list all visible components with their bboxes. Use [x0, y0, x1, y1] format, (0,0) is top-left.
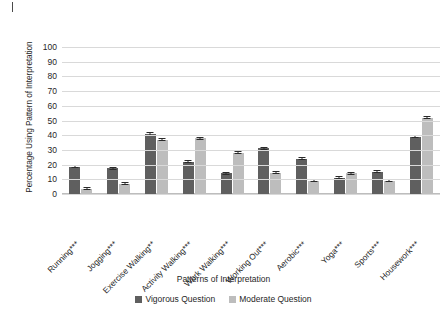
bar[interactable] [384, 181, 395, 194]
bar-slot [195, 138, 206, 194]
gridline [62, 76, 440, 77]
bar[interactable] [258, 148, 269, 194]
gridline [62, 47, 440, 48]
error-bar [301, 157, 302, 160]
legend-item[interactable]: Moderate Question [229, 294, 311, 304]
error-bar [124, 182, 125, 185]
bar-chart-figure: Percentage Using Pattern of Interpretati… [0, 0, 447, 316]
bar-slot [372, 172, 383, 194]
bar[interactable] [119, 184, 130, 194]
error-bar [86, 187, 87, 190]
bar[interactable] [308, 181, 319, 194]
bar-slot [308, 181, 319, 194]
y-tick-label: 30 [27, 145, 57, 155]
bar[interactable] [221, 173, 232, 194]
y-tick-label: 10 [27, 174, 57, 184]
legend-label: Vigorous Question [145, 294, 215, 304]
bar[interactable] [183, 162, 194, 194]
bar-slot [69, 167, 80, 194]
y-tick-label: 70 [27, 86, 57, 96]
error-bar [377, 170, 378, 173]
y-tick-label: 100 [27, 42, 57, 52]
error-bar [200, 137, 201, 140]
gridline [62, 91, 440, 92]
y-tick-label: 50 [27, 116, 57, 126]
bar-slot [233, 153, 244, 194]
error-bar [74, 165, 75, 168]
gridline [62, 150, 440, 151]
legend-item[interactable]: Vigorous Question [135, 294, 215, 304]
bar-slot [221, 173, 232, 194]
error-bar [238, 151, 239, 154]
y-tick-label: 80 [27, 71, 57, 81]
gridline [62, 106, 440, 107]
bar-slot [346, 173, 357, 194]
bar-slot [183, 162, 194, 194]
bar-slot [270, 173, 281, 194]
bar[interactable] [107, 168, 118, 194]
y-tick-label: 0 [27, 189, 57, 199]
legend-swatch-icon [229, 296, 236, 303]
bar[interactable] [233, 153, 244, 194]
bar[interactable] [270, 173, 281, 194]
gridline [62, 62, 440, 63]
error-bar [226, 172, 227, 175]
y-tick-label: 20 [27, 160, 57, 170]
bar-slot [119, 184, 130, 194]
error-bar [112, 167, 113, 170]
bar[interactable] [346, 173, 357, 194]
bar[interactable] [69, 167, 80, 194]
chart-legend: Vigorous QuestionModerate Question [0, 294, 447, 304]
gridline [62, 165, 440, 166]
bar[interactable] [157, 140, 168, 194]
bar-slot [258, 148, 269, 194]
bar-slot [107, 168, 118, 194]
bar-slot [157, 140, 168, 194]
error-bar [427, 116, 428, 120]
error-bar [188, 160, 189, 163]
legend-label: Moderate Question [239, 294, 311, 304]
gridline [62, 179, 440, 180]
error-bar [275, 171, 276, 174]
y-tick-label: 60 [27, 101, 57, 111]
legend-swatch-icon [135, 296, 142, 303]
x-tick-labels: Running***Jogging***Exercise Walking**Ac… [62, 196, 440, 266]
gridline [62, 121, 440, 122]
bar[interactable] [195, 138, 206, 194]
bar-slot [422, 118, 433, 194]
y-tick-label: 90 [27, 57, 57, 67]
x-axis-title: Patterns of Interpretation [0, 274, 447, 284]
gridline [62, 135, 440, 136]
corner-tick-mark [12, 2, 13, 12]
error-bar [351, 172, 352, 175]
y-tick-label: 40 [27, 130, 57, 140]
error-bar [162, 138, 163, 141]
bar[interactable] [422, 118, 433, 194]
gridline [62, 194, 440, 195]
bar[interactable] [372, 172, 383, 194]
bar-slot [384, 181, 395, 194]
plot-area: 1009080706050403020100 [62, 47, 440, 194]
